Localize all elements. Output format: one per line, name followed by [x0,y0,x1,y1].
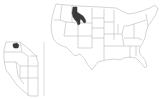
map-canvas [0,0,163,99]
inset-highlighted-region [13,43,19,48]
inset-outline [4,42,38,96]
inset-map-west [4,42,38,96]
us-main-map [51,4,158,70]
us-outline [51,4,158,70]
